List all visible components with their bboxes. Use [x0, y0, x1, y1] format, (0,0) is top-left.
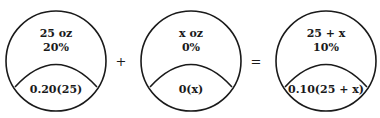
container-2-percent: 0% — [182, 41, 201, 54]
container-2-circle — [141, 11, 241, 111]
equals-operator: = — [251, 54, 262, 69]
mixture-diagram: 25 oz 20% 0.20(25) + x oz 0% 0(x) = 25 +… — [0, 0, 380, 118]
container-1-circle — [6, 11, 106, 111]
container-3-circle — [276, 11, 376, 111]
container-2-expression: 0(x) — [179, 83, 204, 96]
container-2-amount: x oz — [179, 27, 203, 40]
container-3-expression: 0.10(25 + x) — [288, 83, 364, 96]
container-3-percent: 10% — [313, 41, 339, 54]
container-3-amount: 25 + x — [307, 27, 346, 40]
container-1-amount: 25 oz — [40, 27, 73, 40]
container-1-percent: 20% — [43, 41, 69, 54]
container-1: 25 oz 20% 0.20(25) — [6, 11, 106, 111]
container-3: 25 + x 10% 0.10(25 + x) — [276, 11, 376, 111]
container-2: x oz 0% 0(x) — [141, 11, 241, 111]
plus-operator: + — [116, 54, 127, 69]
container-1-expression: 0.20(25) — [30, 83, 83, 96]
